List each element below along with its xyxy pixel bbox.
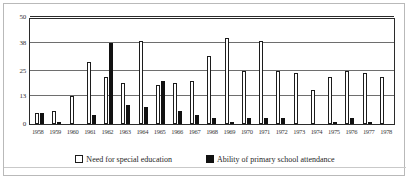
bar-solid-1976	[350, 118, 354, 124]
bar-open-1967	[190, 81, 194, 124]
x-axis-tick-1977: 1977	[360, 128, 377, 144]
x-axis-tick-1973: 1973	[290, 128, 307, 144]
bar-solid-1969	[230, 122, 234, 124]
bar-open-1974	[311, 90, 315, 124]
bar-open-1965	[156, 85, 160, 124]
legend-label-1: Need for special education	[86, 155, 172, 164]
x-axis-tick-1975: 1975	[325, 128, 342, 144]
bar-group-1970	[238, 19, 255, 124]
bar-open-1978	[380, 77, 384, 124]
bar-solid-1962	[109, 43, 113, 124]
bar-open-1961	[87, 62, 91, 124]
x-axis-tick-1970: 1970	[238, 128, 255, 144]
bar-group-1961	[83, 19, 100, 124]
bar-open-1975	[328, 77, 332, 124]
bar-group-1967	[186, 19, 203, 124]
bar-solid-1964	[144, 107, 148, 124]
bar-open-1966	[173, 83, 177, 124]
open-square-marker	[75, 155, 83, 163]
x-axis-tick-1967: 1967	[186, 128, 203, 144]
bar-group-1972	[272, 19, 289, 124]
bar-solid-1961	[92, 115, 96, 124]
y-axis-tick-labels: 013253850	[4, 4, 28, 131]
x-axis-tick-1971: 1971	[255, 128, 272, 144]
filled-square-marker	[206, 155, 214, 163]
bar-solid-1975	[333, 122, 337, 124]
y-axis-tick-25: 25	[19, 68, 26, 75]
bar-open-1970	[242, 71, 246, 125]
bar-group-1960	[65, 19, 82, 124]
x-axis-tick-1969: 1969	[221, 128, 238, 144]
x-axis-tick-1964: 1964	[134, 128, 151, 144]
x-axis-tick-1959: 1959	[46, 128, 63, 144]
bar-solid-1963	[126, 105, 130, 124]
bar-solid-1959	[57, 122, 61, 124]
chart-legend: Need for special educationAbility of pri…	[4, 150, 406, 168]
bar-open-1968	[207, 56, 211, 124]
x-axis-tick-1958: 1958	[29, 128, 46, 144]
bar-groups	[30, 19, 394, 124]
bar-group-1971	[255, 19, 272, 124]
x-axis-tick-1963: 1963	[116, 128, 133, 144]
bar-group-1975	[324, 19, 341, 124]
gridline-50	[30, 16, 394, 17]
bar-group-1963	[117, 19, 134, 124]
y-axis-tick-0: 0	[23, 121, 26, 128]
legend-divider	[4, 167, 406, 168]
bar-solid-1966	[178, 111, 182, 124]
bar-open-1976	[345, 71, 349, 125]
bar-solid-1977	[368, 122, 372, 124]
x-axis-tick-1965: 1965	[151, 128, 168, 144]
x-axis-tick-1960: 1960	[64, 128, 81, 144]
bar-group-1977	[358, 19, 375, 124]
bar-open-1972	[276, 71, 280, 125]
x-axis-tick-1972: 1972	[273, 128, 290, 144]
bar-group-1969	[221, 19, 238, 124]
bar-open-1971	[259, 41, 263, 124]
bar-open-1973	[294, 73, 298, 124]
y-axis-tick-13: 13	[19, 93, 26, 100]
bar-group-1962	[100, 19, 117, 124]
x-axis-tick-1966: 1966	[168, 128, 185, 144]
legend-item-2[interactable]: Ability of primary school attendance	[206, 155, 335, 164]
legend-label-2: Ability of primary school attendance	[217, 155, 335, 164]
x-axis-tick-1961: 1961	[81, 128, 98, 144]
x-axis-tick-1962: 1962	[99, 128, 116, 144]
bar-solid-1958	[40, 113, 44, 124]
x-axis-tick-1976: 1976	[343, 128, 360, 144]
bar-open-1959	[52, 111, 56, 124]
bar-group-1965	[152, 19, 169, 124]
bar-open-1958	[35, 113, 39, 124]
bar-solid-1972	[281, 118, 285, 124]
y-axis-tick-50: 50	[19, 14, 26, 21]
bar-group-1958	[31, 19, 48, 124]
bar-solid-1967	[195, 115, 199, 124]
bar-solid-1968	[212, 118, 216, 124]
bar-group-1959	[48, 19, 65, 124]
bar-open-1964	[139, 41, 143, 124]
bar-group-1966	[169, 19, 186, 124]
bar-group-1968	[203, 19, 220, 124]
bar-group-1978	[376, 19, 393, 124]
bar-solid-1971	[264, 118, 268, 124]
bar-open-1960	[70, 96, 74, 124]
bar-open-1969	[225, 38, 229, 124]
plot-area	[29, 18, 395, 125]
x-axis-tick-1978: 1978	[377, 128, 394, 144]
legend-item-1[interactable]: Need for special education	[75, 155, 172, 164]
x-axis-tick-1974: 1974	[308, 128, 325, 144]
bar-group-1974	[307, 19, 324, 124]
bar-solid-1970	[247, 118, 251, 124]
bar-open-1963	[121, 83, 125, 124]
chart-figure: 013253850 195819591960196119621963196419…	[3, 3, 405, 176]
bar-group-1973	[290, 19, 307, 124]
bar-group-1964	[134, 19, 151, 124]
bar-solid-1965	[161, 81, 165, 124]
x-axis-tick-labels: 1958195919601961196219631964196519661967…	[29, 128, 395, 144]
bar-group-1976	[341, 19, 358, 124]
bar-open-1962	[104, 77, 108, 124]
y-axis-tick-38: 38	[19, 40, 26, 47]
x-axis-tick-1968: 1968	[203, 128, 220, 144]
bar-open-1977	[363, 73, 367, 124]
